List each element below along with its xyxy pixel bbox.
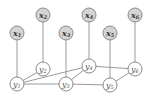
node-x1: x1 [10,26,24,40]
node-y6: y6 [128,62,142,76]
node-x5: x5 [103,26,117,40]
node-x6: x6 [128,8,142,22]
nodes-layer: x1x2x3x4x5x6y1y2y3y4y5y6 [10,8,142,92]
node-x3: x3 [59,26,73,40]
graphical-model-diagram: x1x2x3x4x5x6y1y2y3y4y5y6 [0,0,154,101]
node-y1: y1 [10,77,24,91]
node-y3: y3 [59,77,73,91]
node-x2: x2 [36,8,50,22]
node-y4: y4 [82,59,96,73]
edges-layer [17,15,135,85]
node-y5: y5 [103,78,117,92]
node-y2: y2 [36,62,50,76]
node-x4: x4 [82,8,96,22]
